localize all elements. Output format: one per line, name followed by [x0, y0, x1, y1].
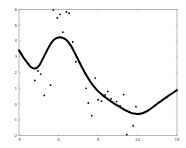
data-point — [59, 13, 61, 15]
x-tick-label: 10 — [135, 137, 141, 142]
data-point — [37, 70, 39, 72]
data-point — [110, 98, 112, 100]
data-point — [87, 102, 89, 104]
data-point — [116, 101, 118, 103]
x-tick-label: 15 — [174, 137, 180, 142]
y-tick-label: 6 — [14, 7, 17, 12]
data-point — [66, 11, 68, 13]
data-point — [123, 94, 125, 96]
data-point — [62, 31, 64, 33]
y-tick-label: 1 — [14, 86, 17, 91]
data-point — [119, 105, 121, 107]
y-tick-label: -1 — [13, 117, 17, 122]
fit-curve — [19, 37, 177, 114]
fit-curve-layer — [19, 37, 177, 114]
x-tick-label: 5 — [97, 137, 100, 142]
y-tick-label: 5 — [14, 23, 17, 28]
data-point — [85, 87, 87, 89]
data-point — [94, 77, 96, 79]
y-axis: -2-10123456 — [13, 7, 177, 138]
data-point — [43, 95, 45, 97]
data-point — [56, 17, 58, 19]
data-point — [101, 100, 103, 102]
x-axis: -5051015 — [17, 9, 180, 141]
data-point — [50, 84, 52, 86]
y-tick-label: -2 — [13, 133, 17, 138]
x-tick-label: 0 — [57, 137, 60, 142]
data-point — [135, 106, 137, 108]
data-point — [75, 61, 77, 63]
data-point — [40, 73, 42, 75]
data-point — [52, 9, 54, 11]
data-point — [78, 61, 80, 63]
y-tick-label: 3 — [14, 54, 17, 59]
data-point — [72, 41, 74, 43]
data-point — [91, 115, 93, 117]
data-point — [34, 80, 36, 82]
data-point — [104, 94, 106, 96]
data-point — [113, 102, 115, 104]
data-point — [107, 90, 109, 92]
plot-border — [19, 9, 177, 135]
data-point — [126, 134, 128, 136]
y-tick-label: 0 — [14, 102, 17, 107]
data-point — [129, 111, 131, 113]
y-tick-label: 2 — [14, 70, 17, 75]
chart: -5051015 -2-10123456 — [0, 0, 186, 148]
x-tick-label: -5 — [17, 137, 21, 142]
plot-frame — [19, 9, 177, 135]
data-point — [97, 99, 99, 101]
data-point — [132, 125, 134, 127]
data-point — [68, 12, 70, 14]
y-tick-label: 4 — [14, 38, 17, 43]
